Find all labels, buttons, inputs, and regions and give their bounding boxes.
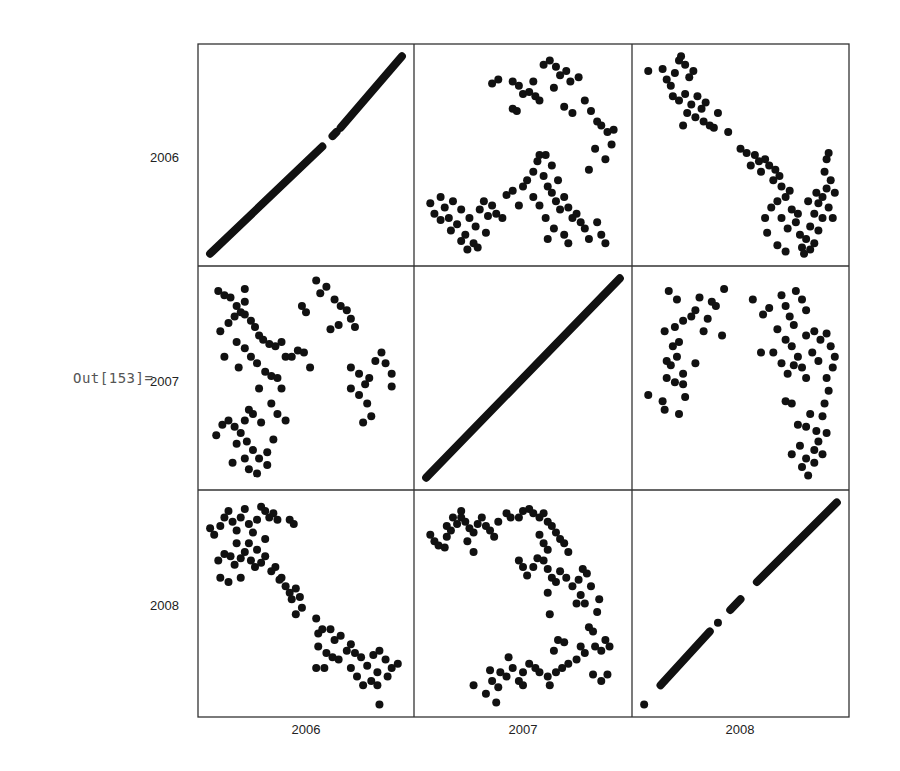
data-point xyxy=(794,210,802,218)
data-point xyxy=(470,681,478,689)
data-point xyxy=(821,168,829,176)
data-point xyxy=(363,662,371,670)
data-point xyxy=(343,306,351,314)
data-point xyxy=(661,327,669,335)
data-point xyxy=(610,126,618,134)
data-point xyxy=(814,357,822,365)
data-point xyxy=(470,529,478,537)
data-point xyxy=(237,429,245,437)
panel-2006-vs-2007 xyxy=(426,57,617,254)
identity-line-segment xyxy=(426,278,620,477)
data-point xyxy=(241,455,249,463)
data-point xyxy=(720,285,728,293)
data-point xyxy=(769,349,777,357)
data-point xyxy=(585,235,593,243)
data-point xyxy=(804,197,812,205)
data-point xyxy=(802,235,810,243)
data-point xyxy=(463,246,471,254)
data-point xyxy=(677,52,685,60)
data-point xyxy=(548,162,556,170)
data-point xyxy=(812,189,820,197)
data-point xyxy=(710,124,718,132)
data-point xyxy=(540,509,548,517)
data-point xyxy=(457,237,465,245)
data-point xyxy=(568,109,576,117)
data-point xyxy=(823,329,831,337)
data-point xyxy=(306,363,314,371)
data-point xyxy=(437,193,445,201)
data-point xyxy=(227,293,235,301)
data-point xyxy=(445,214,453,222)
data-point xyxy=(687,101,695,109)
data-point xyxy=(763,229,771,237)
data-point xyxy=(718,332,726,340)
data-point xyxy=(587,582,595,590)
data-point xyxy=(243,438,251,446)
data-point xyxy=(673,296,681,304)
data-point xyxy=(667,82,675,90)
data-point xyxy=(484,212,492,220)
data-point xyxy=(769,176,777,184)
data-point xyxy=(556,206,564,214)
data-point xyxy=(581,96,589,104)
data-point xyxy=(382,655,390,663)
data-point xyxy=(273,374,281,382)
data-point xyxy=(426,199,434,207)
data-point xyxy=(808,349,816,357)
data-point xyxy=(273,516,281,524)
data-point xyxy=(224,507,232,515)
data-point xyxy=(312,615,320,623)
data-point xyxy=(292,610,300,618)
data-point xyxy=(535,201,543,209)
data-point xyxy=(802,332,810,340)
data-point xyxy=(603,670,611,678)
panel-2007-vs-2007 xyxy=(426,278,620,477)
data-point xyxy=(540,557,548,565)
data-point xyxy=(216,574,224,582)
data-point xyxy=(585,166,593,174)
data-point xyxy=(233,526,241,534)
data-point xyxy=(671,378,679,386)
data-point xyxy=(269,435,277,443)
data-point xyxy=(486,666,494,674)
data-point xyxy=(388,382,396,390)
data-point xyxy=(347,664,355,672)
data-point xyxy=(597,231,605,239)
data-point xyxy=(593,608,601,616)
data-point xyxy=(591,145,599,153)
data-point xyxy=(519,681,527,689)
data-point xyxy=(245,406,253,414)
data-point xyxy=(441,544,449,552)
data-point xyxy=(288,595,296,603)
data-point xyxy=(581,600,589,608)
data-point xyxy=(216,327,224,335)
data-point xyxy=(693,92,701,100)
data-point xyxy=(542,151,550,159)
data-point xyxy=(245,465,253,473)
data-point xyxy=(564,239,572,247)
data-point xyxy=(482,690,490,698)
data-point xyxy=(316,289,324,297)
data-point xyxy=(363,399,371,407)
data-point xyxy=(560,193,568,201)
data-point xyxy=(490,533,498,541)
data-point xyxy=(367,412,375,420)
data-point xyxy=(359,681,367,689)
data-point xyxy=(802,306,810,314)
data-point xyxy=(704,315,712,323)
data-point xyxy=(430,210,438,218)
data-point xyxy=(819,214,827,222)
data-point xyxy=(273,410,281,418)
data-point xyxy=(241,285,249,293)
data-point xyxy=(373,668,381,676)
data-point xyxy=(778,183,786,191)
data-point xyxy=(453,220,461,228)
panel-2008-vs-2008 xyxy=(644,502,837,704)
data-point xyxy=(659,397,667,405)
data-point xyxy=(802,374,810,382)
data-point xyxy=(375,647,383,655)
data-point xyxy=(823,185,831,193)
data-point xyxy=(724,128,732,136)
data-point xyxy=(233,338,241,346)
data-point xyxy=(437,216,445,224)
